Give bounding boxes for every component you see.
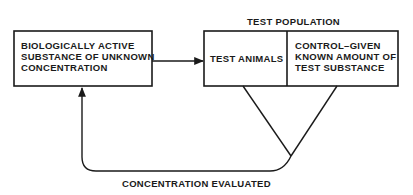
- test-animals-label: TEST ANIMALS: [210, 53, 283, 64]
- feedback-label: CONCENTRATION EVALUATED: [122, 178, 271, 189]
- control-line-3: TEST SUBSTANCE: [295, 62, 396, 73]
- source-line-3: CONCENTRATION: [21, 62, 155, 73]
- converge-line-left: [243, 86, 291, 156]
- source-line-1: BIOLOGICALLY ACTIVE: [21, 40, 155, 51]
- source-box-text: BIOLOGICALLY ACTIVE SUBSTANCE OF UNKNOWN…: [21, 40, 155, 73]
- control-line-1: CONTROL–GIVEN: [295, 40, 396, 51]
- group-label: TEST POPULATION: [247, 16, 340, 27]
- source-line-2: SUBSTANCE OF UNKNOWN: [21, 51, 155, 62]
- converge-line-right: [291, 86, 337, 156]
- control-line-2: KNOWN AMOUNT OF: [295, 51, 396, 62]
- control-box-text: CONTROL–GIVEN KNOWN AMOUNT OF TEST SUBST…: [295, 40, 396, 73]
- feedback-arrow: [82, 88, 291, 171]
- diagram-canvas: [0, 0, 413, 195]
